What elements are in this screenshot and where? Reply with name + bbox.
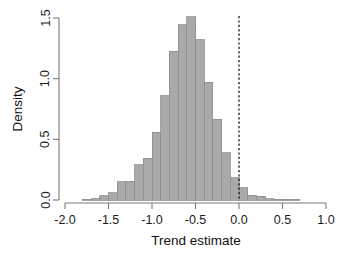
y-axis: 0.00.51.01.5 Density <box>10 9 59 208</box>
y-axis-tick-labels: 0.00.51.01.5 <box>39 9 53 208</box>
histogram-bar <box>256 196 265 200</box>
histogram-bar <box>230 178 239 200</box>
histogram-bar <box>109 193 118 200</box>
histogram-bar <box>204 82 213 200</box>
histogram-bar <box>152 132 161 200</box>
y-axis-title: Density <box>10 86 25 131</box>
histogram-bar <box>169 51 178 200</box>
histogram-bar <box>161 96 170 200</box>
histogram-bar <box>239 188 248 200</box>
y-axis-ticks <box>53 18 59 200</box>
x-axis-tick-label: -1.5 <box>98 213 120 227</box>
x-axis: -2.0-1.5-1.0-0.50.00.51.0 Trend estimate <box>54 203 335 248</box>
y-axis-tick-label: 0.5 <box>39 131 53 148</box>
histogram-bar <box>135 165 144 200</box>
histogram-bar <box>274 199 283 200</box>
histogram-figure: -2.0-1.5-1.0-0.50.00.51.0 Trend estimate… <box>0 0 340 255</box>
histogram-bar <box>265 199 274 200</box>
histogram-bar <box>213 119 222 200</box>
x-axis-tick-labels: -2.0-1.5-1.0-0.50.00.51.0 <box>54 213 335 227</box>
histogram-bar <box>283 199 292 200</box>
y-axis-tick-label: 0.0 <box>39 191 53 208</box>
x-axis-tick-label: 0.5 <box>274 213 291 227</box>
histogram-bar <box>126 181 135 200</box>
histogram-bar <box>248 195 257 200</box>
histogram-bar <box>291 199 300 200</box>
x-axis-title: Trend estimate <box>151 233 241 248</box>
histogram-bar <box>196 40 205 200</box>
x-axis-tick-label: -0.5 <box>185 213 207 227</box>
x-axis-ticks <box>65 203 326 209</box>
histogram-bar <box>82 199 91 200</box>
histogram-canvas: -2.0-1.5-1.0-0.50.00.51.0 Trend estimate… <box>0 0 340 255</box>
histogram-bar <box>91 199 100 200</box>
x-axis-tick-label: 0.0 <box>230 213 247 227</box>
histogram-bar <box>178 25 187 200</box>
y-axis-tick-label: 1.0 <box>39 70 53 87</box>
x-axis-tick-label: 1.0 <box>317 213 334 227</box>
histogram-bar <box>187 17 196 200</box>
histogram-bar <box>117 182 126 200</box>
histogram-bar <box>100 196 109 200</box>
histogram-bar <box>143 158 152 200</box>
histogram-bar <box>222 153 231 200</box>
y-axis-tick-label: 1.5 <box>39 9 53 26</box>
x-axis-tick-label: -1.0 <box>141 213 163 227</box>
x-axis-tick-label: -2.0 <box>54 213 76 227</box>
histogram-bars <box>82 17 300 200</box>
